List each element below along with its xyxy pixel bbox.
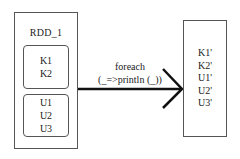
output-item: K2': [198, 60, 212, 73]
output-item: U1': [198, 72, 212, 85]
output-item: U3': [198, 97, 212, 110]
output-item: U2': [198, 85, 212, 98]
output-box: K1' K2' U1' U2' U3': [183, 20, 227, 137]
output-item: K1': [198, 47, 212, 60]
